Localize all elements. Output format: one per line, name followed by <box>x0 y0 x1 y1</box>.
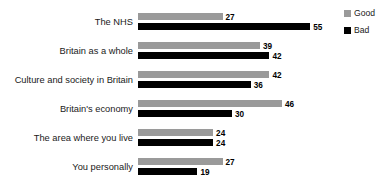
category-label: The area where you live <box>0 133 133 143</box>
bar-value-label: 27 <box>226 14 235 22</box>
bar-bad[interactable] <box>138 52 269 59</box>
bar-bad[interactable] <box>138 110 232 117</box>
bar-value-label: 19 <box>200 169 209 177</box>
bar-good[interactable] <box>138 13 223 20</box>
legend-item-bad[interactable]: Bad <box>344 25 385 42</box>
category-label: You personally <box>0 162 133 172</box>
legend-label-bad: Bad <box>354 25 369 35</box>
good-swatch-icon <box>344 10 351 17</box>
bar-value-label: 27 <box>226 159 235 167</box>
bar-value-label: 42 <box>272 53 281 61</box>
bar-good[interactable] <box>138 71 269 78</box>
bar-bad[interactable] <box>138 139 213 146</box>
chart-legend: Good Bad <box>344 8 385 42</box>
bar-good[interactable] <box>138 158 223 165</box>
bar-value-label: 39 <box>263 43 272 51</box>
plot-area: The NHS2755Britain as a whole3942Culture… <box>0 0 385 190</box>
bar-value-label: 36 <box>254 82 263 90</box>
bar-good[interactable] <box>138 100 282 107</box>
bar-bad[interactable] <box>138 23 310 30</box>
bar-value-label: 55 <box>313 24 322 32</box>
bar-value-label: 42 <box>272 72 281 80</box>
bar-good[interactable] <box>138 129 213 136</box>
bar-value-label: 24 <box>216 140 225 148</box>
bar-chart: The NHS2755Britain as a whole3942Culture… <box>0 0 385 190</box>
bar-value-label: 30 <box>235 111 244 119</box>
bar-value-label: 46 <box>285 101 294 109</box>
category-label: Culture and society in Britain <box>0 75 133 85</box>
category-label: The NHS <box>0 17 133 27</box>
legend-label-good: Good <box>354 8 375 18</box>
bar-good[interactable] <box>138 42 260 49</box>
bad-swatch-icon <box>344 27 351 34</box>
bar-bad[interactable] <box>138 81 251 88</box>
bar-value-label: 24 <box>216 130 225 138</box>
legend-item-good[interactable]: Good <box>344 8 385 25</box>
category-label: Britain's economy <box>0 104 133 114</box>
category-label: Britain as a whole <box>0 46 133 56</box>
bar-bad[interactable] <box>138 168 197 175</box>
